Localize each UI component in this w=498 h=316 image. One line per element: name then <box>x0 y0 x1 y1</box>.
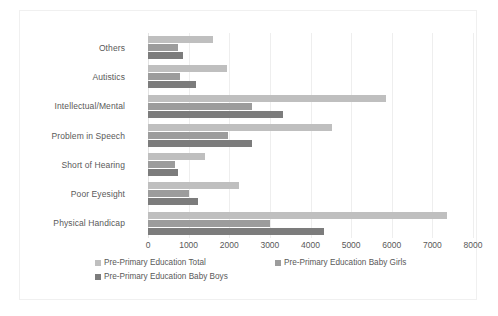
x-tick-label: 6000 <box>382 240 401 250</box>
category-label: Intellectual/Mental <box>20 101 125 111</box>
legend-item[interactable]: Pre-Primary Education Total <box>95 259 206 267</box>
bar-group-bars <box>148 153 473 176</box>
bar-group-bars <box>148 65 473 88</box>
bar-group <box>148 209 473 238</box>
chart-frame: Physical HandicapPoor EyesightShort of H… <box>19 10 477 300</box>
bar <box>148 95 386 102</box>
category-label: Autistics <box>20 72 125 82</box>
bar <box>148 103 252 110</box>
category-label: Others <box>20 43 125 53</box>
bar <box>148 190 189 197</box>
x-tick-label: 8000 <box>464 240 483 250</box>
bar-group <box>148 62 473 91</box>
bar-group <box>148 121 473 150</box>
category-label: Poor Eyesight <box>20 189 125 199</box>
bar <box>148 111 283 118</box>
bar-group <box>148 179 473 208</box>
legend-label: Pre-Primary Education Total <box>104 259 206 267</box>
legend-row: Pre-Primary Education Baby Boys <box>60 273 480 287</box>
x-tick-label: 1000 <box>179 240 198 250</box>
category-label: Problem in Speech <box>20 131 125 141</box>
bar-group-bars <box>148 212 473 235</box>
x-tick-label: 3000 <box>260 240 279 250</box>
bar <box>148 228 324 235</box>
x-tick-label: 4000 <box>301 240 320 250</box>
bar <box>148 153 205 160</box>
bar <box>148 161 175 168</box>
bar <box>148 132 228 139</box>
bar <box>148 182 239 189</box>
bar-group <box>148 150 473 179</box>
bar <box>148 52 183 59</box>
bar <box>148 169 178 176</box>
category-label: Physical Handicap <box>20 218 125 228</box>
bar <box>148 65 227 72</box>
bar-group-bars <box>148 36 473 59</box>
x-axis: 010002000300040005000600070008000 <box>148 238 473 254</box>
gridline-8000 <box>473 33 474 238</box>
bar-group-bars <box>148 95 473 118</box>
legend-swatch-icon <box>95 274 101 280</box>
legend-label: Pre-Primary Education Baby Girls <box>284 259 406 267</box>
bar <box>148 36 213 43</box>
bar-group-bars <box>148 182 473 205</box>
bar-group <box>148 92 473 121</box>
x-tick-label: 5000 <box>342 240 361 250</box>
bar-group-bars <box>148 124 473 147</box>
bar <box>148 124 332 131</box>
legend-item[interactable]: Pre-Primary Education Baby Girls <box>275 259 406 267</box>
category-label: Short of Hearing <box>20 160 125 170</box>
bar <box>148 81 196 88</box>
bar <box>148 198 198 205</box>
bar-group <box>148 33 473 62</box>
legend-item[interactable]: Pre-Primary Education Baby Boys <box>95 273 228 281</box>
x-tick-label: 2000 <box>220 240 239 250</box>
bar <box>148 212 447 219</box>
legend-label: Pre-Primary Education Baby Boys <box>104 273 228 281</box>
legend-swatch-icon <box>275 260 281 266</box>
bar <box>148 220 270 227</box>
x-tick-label: 7000 <box>423 240 442 250</box>
bar <box>148 140 252 147</box>
legend-row: Pre-Primary Education TotalPre-Primary E… <box>60 259 480 273</box>
x-tick-label: 0 <box>146 240 151 250</box>
bar <box>148 44 178 51</box>
plot-area <box>148 33 473 238</box>
legend-swatch-icon <box>95 260 101 266</box>
bar <box>148 73 180 80</box>
